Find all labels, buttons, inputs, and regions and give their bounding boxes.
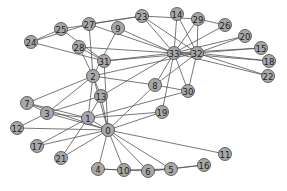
node-label: 2 (90, 72, 95, 82)
node-label: 14 (172, 10, 183, 20)
edge (17, 128, 108, 130)
node-11: 11 (219, 148, 232, 161)
edge (174, 53, 268, 76)
node-0: 0 (102, 124, 115, 137)
node-label: 30 (183, 87, 194, 97)
node-label: 5 (168, 165, 173, 175)
node-label: 33 (169, 49, 180, 59)
edge (174, 48, 261, 53)
node-label: 3 (44, 109, 49, 119)
node-10: 10 (118, 164, 131, 177)
node-label: 21 (56, 154, 67, 164)
node-label: 23 (137, 12, 148, 22)
node-19: 19 (156, 106, 169, 119)
edge (108, 85, 155, 130)
node-24: 24 (25, 36, 38, 49)
node-1: 1 (82, 112, 95, 125)
edge (108, 130, 171, 169)
node-label: 17 (32, 142, 43, 152)
node-22: 22 (262, 70, 275, 83)
node-20: 20 (239, 30, 252, 43)
node-label: 16 (199, 161, 210, 171)
node-label: 15 (256, 44, 267, 54)
node-28: 28 (73, 41, 86, 54)
node-23: 23 (136, 10, 149, 23)
edges-layer (17, 14, 269, 171)
node-label: 18 (264, 57, 275, 67)
edge (101, 53, 174, 96)
node-label: 10 (119, 166, 130, 176)
edge (142, 16, 198, 19)
node-3: 3 (41, 107, 54, 120)
edge (37, 118, 88, 146)
node-9: 9 (112, 22, 125, 35)
node-29: 29 (192, 13, 205, 26)
edge (47, 76, 93, 113)
node-32: 32 (191, 47, 204, 60)
node-label: 6 (145, 167, 150, 177)
node-15: 15 (255, 42, 268, 55)
node-label: 4 (95, 165, 100, 175)
edge (27, 76, 93, 103)
node-label: 28 (74, 43, 85, 53)
node-label: 1 (85, 114, 90, 124)
node-8: 8 (149, 79, 162, 92)
node-label: 24 (26, 38, 37, 48)
node-27: 27 (83, 18, 96, 31)
node-label: 20 (240, 32, 251, 42)
node-label: 9 (115, 24, 120, 34)
node-2: 2 (87, 70, 100, 83)
node-12: 12 (11, 122, 24, 135)
node-33: 33 (168, 47, 181, 60)
edge (31, 42, 104, 61)
node-31: 31 (98, 55, 111, 68)
node-4: 4 (92, 163, 105, 176)
node-7: 7 (21, 97, 34, 110)
node-13: 13 (95, 90, 108, 103)
node-18: 18 (263, 55, 276, 68)
node-label: 7 (24, 99, 29, 109)
node-label: 11 (220, 150, 231, 160)
node-26: 26 (219, 19, 232, 32)
node-label: 27 (84, 20, 95, 30)
edge (108, 112, 162, 130)
edge (197, 53, 268, 76)
edge (108, 130, 225, 154)
node-label: 32 (192, 49, 203, 59)
node-16: 16 (198, 159, 211, 172)
node-label: 13 (96, 92, 107, 102)
node-14: 14 (171, 8, 184, 21)
edge (61, 118, 88, 158)
node-label: 12 (12, 124, 23, 134)
edge (104, 53, 174, 61)
node-label: 22 (263, 72, 274, 82)
node-label: 19 (157, 108, 168, 118)
node-21: 21 (55, 152, 68, 165)
node-5: 5 (165, 163, 178, 176)
node-17: 17 (31, 140, 44, 153)
node-label: 0 (105, 126, 110, 136)
edge (93, 28, 118, 76)
node-label: 29 (193, 15, 204, 25)
node-label: 25 (56, 25, 67, 35)
node-30: 30 (182, 85, 195, 98)
edge (93, 76, 155, 85)
edge (61, 130, 108, 158)
node-25: 25 (55, 23, 68, 36)
edge (37, 130, 108, 146)
edge (162, 53, 174, 112)
node-label: 8 (152, 81, 157, 91)
node-label: 31 (99, 57, 110, 67)
node-6: 6 (142, 165, 155, 178)
network-graph: 0123456789101112131415161718192021222324… (0, 0, 287, 191)
node-label: 26 (220, 21, 231, 31)
